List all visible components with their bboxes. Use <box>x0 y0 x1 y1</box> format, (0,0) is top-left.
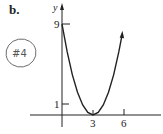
y-tick-label-1: 1 <box>54 98 60 110</box>
y-tick-label-9: 9 <box>54 18 60 30</box>
parabola-graph: #4 y 9 1 3 6 <box>0 0 163 134</box>
x-tick-label-3: 3 <box>90 117 96 129</box>
x-tick-label-6: 6 <box>121 117 127 129</box>
handwritten-annotation: #4 <box>4 37 38 70</box>
annotation-text: #4 <box>12 48 27 59</box>
y-axis-arrow-icon <box>60 3 64 10</box>
curve-arrow-icon <box>120 31 124 39</box>
y-axis-label: y <box>52 2 58 13</box>
parabola-curve <box>62 24 122 115</box>
